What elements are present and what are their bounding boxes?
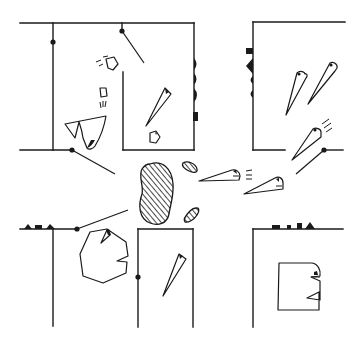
wall-triangle [46, 224, 55, 229]
wall-triangle [24, 224, 32, 229]
octagon-figure [80, 229, 128, 283]
wall-block [272, 225, 280, 229]
door-swing [72, 150, 115, 174]
cone-figure-1 [286, 71, 307, 115]
wall-block [193, 112, 198, 121]
illustration-canvas [0, 0, 363, 347]
floor-plan-illustration: Line-art floor plan with moving pie-slic… [0, 0, 363, 347]
wall-bumps [194, 58, 197, 102]
small-polygon-figure [150, 131, 160, 143]
wall-triangle [305, 222, 315, 229]
bottom-thin-cone-figure [163, 254, 186, 296]
wall-block [297, 223, 302, 229]
small-hatched-blob-bottom [184, 208, 198, 222]
door-hinge [50, 39, 55, 44]
door-swing [77, 210, 128, 229]
wall-block [35, 225, 42, 229]
cone-figure-2 [308, 62, 337, 104]
cone-figure-4 [199, 170, 252, 181]
door-hinge [135, 274, 140, 279]
top-left-room [20, 23, 198, 174]
small-square-figure-top [96, 56, 118, 70]
small-square-figure-middle [100, 88, 107, 108]
bottom-middle-room [135, 229, 193, 327]
thin-cone-figure [146, 88, 171, 126]
cone-figure-5 [244, 177, 283, 194]
wall-block [246, 48, 253, 54]
square-figure [278, 263, 320, 310]
small-hatched-blob-top [182, 162, 197, 172]
pie-figure-large [65, 116, 106, 149]
large-hatched-blob [140, 163, 173, 224]
cone-figure-3 [292, 119, 332, 160]
wall-block [287, 225, 291, 229]
door-swing [122, 31, 144, 63]
wall-triangle [246, 58, 253, 74]
